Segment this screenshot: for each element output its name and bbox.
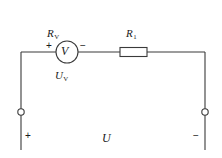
voltmeter-symbol-letter: V: [61, 45, 68, 57]
resistor-label: R1: [126, 28, 137, 40]
source-voltage-label: U: [102, 132, 111, 144]
voltmeter-resistance-subscript: V: [54, 33, 59, 40]
voltmeter-voltage-subscript: V: [63, 75, 68, 82]
terminal-left-open-circle: [18, 109, 24, 115]
source-minus-sign: −: [193, 131, 199, 141]
voltmeter-plus-sign: +: [46, 41, 52, 51]
voltmeter-resistance-symbol: R: [47, 27, 54, 39]
circuit-schematic-canvas: [0, 0, 222, 158]
source-plus-sign: +: [25, 131, 31, 141]
voltmeter-voltage-symbol: U: [55, 69, 63, 81]
circuit-diagram: RV UV R1 U V + − + −: [0, 0, 222, 158]
resistor-subscript: 1: [133, 33, 137, 40]
resistor-symbol: R: [126, 27, 133, 39]
voltmeter-voltage-label: UV: [55, 70, 68, 82]
resistor-body: [120, 48, 147, 57]
terminal-right-open-circle: [202, 109, 208, 115]
voltmeter-resistance-label: RV: [47, 28, 59, 40]
voltmeter-minus-sign: −: [80, 41, 86, 51]
